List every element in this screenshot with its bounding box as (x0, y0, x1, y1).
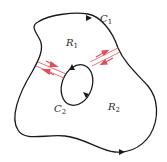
arrow-c1-bottom-icon (119, 149, 125, 155)
outer-curve-c1 (15, 13, 157, 152)
inner-curve-c2 (56, 60, 99, 110)
label-r1: R1 (65, 37, 78, 50)
left-cut-arrows-icon (43, 61, 57, 75)
label-c2: C2 (54, 103, 66, 116)
arrow-c2-top-icon (69, 64, 75, 70)
arrow-c1-top-icon (86, 15, 92, 21)
label-c1: C1 (100, 13, 112, 26)
label-r2: R2 (107, 101, 120, 114)
green-theorem-diagram: C1 R1 C2 R2 (0, 0, 167, 162)
